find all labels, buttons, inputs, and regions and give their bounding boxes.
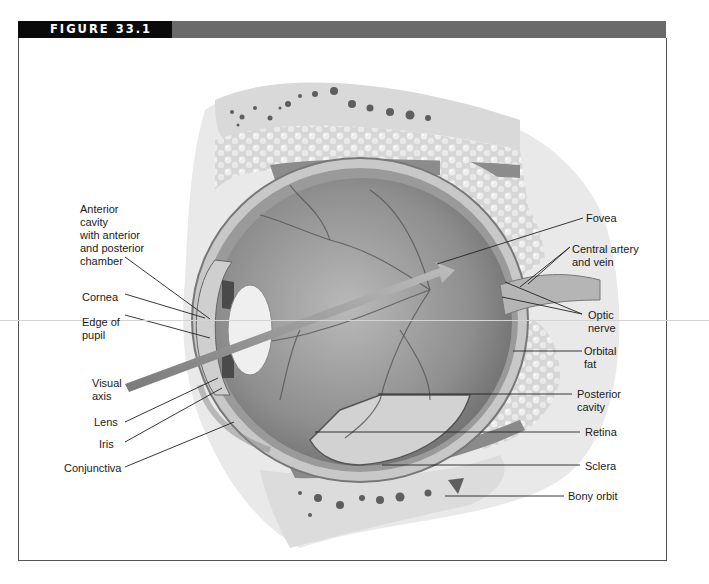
label-bony-orbit: Bony orbit — [568, 490, 618, 503]
label-conjunctiva: Conjunctiva — [64, 462, 121, 475]
label-edge-of-pupil: Edge of pupil — [82, 316, 120, 342]
label-sclera: Sclera — [585, 460, 616, 473]
label-anterior-cavity: Anterior cavity with anterior and poster… — [80, 203, 144, 268]
label-central-artery-vein: Central artery and vein — [572, 243, 639, 269]
label-optic-nerve: Optic nerve — [588, 309, 616, 335]
label-cornea: Cornea — [82, 291, 118, 304]
label-orbital-fat: Orbital fat — [584, 345, 616, 371]
label-iris: Iris — [99, 438, 114, 451]
label-retina: Retina — [585, 426, 617, 439]
label-posterior-cavity: Posterior cavity — [577, 388, 621, 414]
label-visual-axis: Visual axis — [92, 377, 122, 403]
label-lens: Lens — [94, 416, 118, 429]
label-fovea: Fovea — [586, 212, 617, 225]
